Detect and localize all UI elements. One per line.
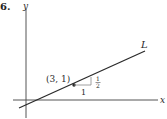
y-axis-label: y [22, 1, 29, 11]
rise-denominator: 2 [96, 82, 100, 89]
point-label: (3, 1) [46, 74, 70, 84]
rise-fraction: 1 2 [96, 75, 101, 89]
coordinate-diagram: 6. y x L (3, 1) 1 1 2 [0, 0, 167, 119]
problem-number: 6. [0, 1, 10, 12]
x-axis-label: x [160, 95, 165, 105]
rise-numerator: 1 [96, 75, 100, 82]
slope-triangle [74, 77, 91, 85]
line-label: L [140, 39, 148, 50]
line-l [19, 51, 145, 108]
run-label: 1 [81, 88, 86, 97]
